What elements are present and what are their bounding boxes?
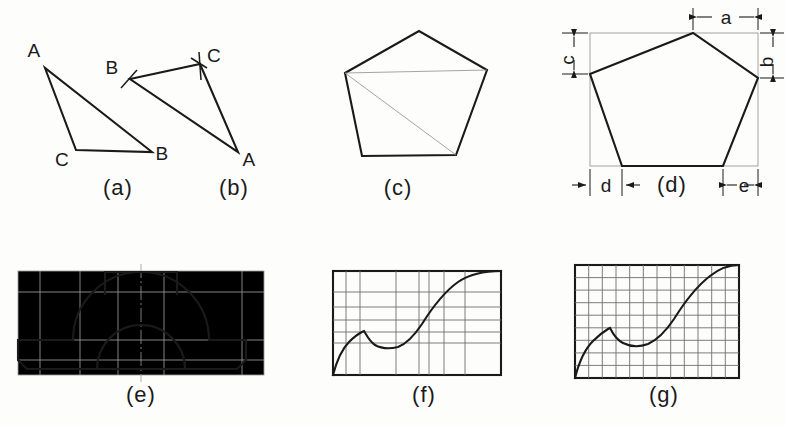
dimension-label-b: b — [756, 57, 777, 68]
dimension-d-offset: d — [572, 169, 640, 196]
dimension-label-c: c — [557, 55, 578, 65]
curve-f-path — [333, 271, 501, 375]
dimension-a: a — [693, 7, 758, 30]
caption-e: (e) — [126, 382, 156, 407]
dimension-b: b — [756, 33, 784, 78]
figure-g-curve-uniform: (g) — [550, 250, 786, 425]
figure-e-bearing-block: (e) — [0, 250, 300, 425]
figure-f-curve-nonuniform: (f) — [310, 250, 550, 425]
dimension-label-a: a — [721, 7, 732, 28]
figure-d-pentagon-offsets: a b c d — [0, 0, 786, 210]
drawing-plate: A C B (a) B C A (b) (c) — [0, 0, 786, 425]
dimension-label-d: d — [601, 175, 612, 196]
curve-g-vertical-grid — [589, 265, 726, 378]
caption-d: (d) — [657, 172, 687, 197]
dimension-e: e — [723, 169, 758, 196]
curve-f-vertical-lines — [346, 271, 465, 375]
caption-g: (g) — [649, 382, 679, 407]
dimension-c: c — [557, 33, 588, 74]
curve-f-frame — [333, 271, 501, 375]
pentagon-d-outline — [590, 33, 758, 166]
dimension-label-e: e — [739, 175, 750, 196]
caption-f: (f) — [412, 382, 436, 407]
